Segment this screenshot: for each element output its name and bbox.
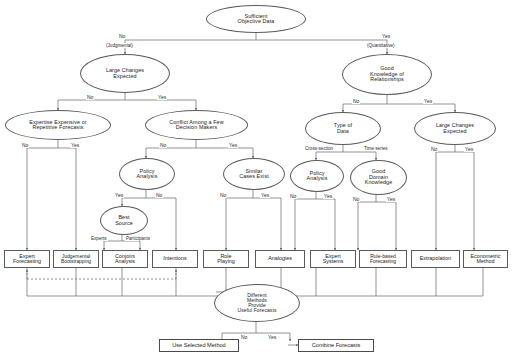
edge-label-lce-left-yes: Yes [157, 94, 167, 100]
edge-label-gkr-no: No [352, 98, 360, 104]
edge-label-root-yes: Yes [381, 33, 391, 39]
edge-label-root-yes-paren: (Quantitative) [366, 43, 396, 48]
edge-label-different-methods-yes: Yes [267, 334, 277, 340]
node-similar-cases-exist: SimilarCases Exist [223, 158, 285, 190]
outcome-use-selected-method: Use Selected Method [159, 339, 239, 352]
method-expert-systems: ExpertSystems [310, 250, 356, 268]
method-rule-based-forecasting: Rule-basedForecasting [359, 250, 407, 268]
node-conflict-among-few: Conflict Among a FewDecision Makers [145, 110, 248, 140]
method-econometric-method: EconometricMethod [463, 250, 508, 268]
node-best-source: BestSource [100, 206, 148, 235]
forecasting-flowchart: SufficientObjective Data Large ChangesEx… [0, 0, 512, 359]
edge-label-best-experts: Experts [90, 236, 108, 241]
edge-label-lce-right-yes: Yes [464, 146, 474, 152]
edge-label-time-series: Time series [363, 146, 389, 151]
edge-label-pa-right-yes: Yes [323, 193, 333, 199]
edge-label-different-methods-no: No [240, 334, 248, 340]
edge-label-gdk-no: No [352, 196, 360, 202]
edge-label-conflict-no: No [159, 142, 167, 148]
edge-label-best-participants: Participants [125, 236, 151, 241]
edge-label-pa-left-yes: Yes [114, 192, 124, 198]
node-type-of-data: Type ofData [305, 112, 381, 145]
edge-label-pa-right-no: No [289, 193, 297, 199]
node-policy-analysis-right: PolicyAnalysis [290, 160, 344, 192]
node-good-knowledge-relationships: GoodKnowledge ofRelationships [342, 54, 432, 95]
method-judgemental-bootstrapping: JudgementalBootstrapping [53, 250, 99, 268]
outcome-combine-forecasts: Combine Forecasts [298, 339, 374, 352]
edge-label-sce-no: No [219, 192, 227, 198]
node-policy-analysis-left: PolicyAnalysis [119, 158, 175, 190]
edge-label-cross-section: Cross-section [304, 146, 334, 151]
node-different-methods: DifferentMethodsProvideUseful Forecasts [214, 284, 300, 322]
edge-label-gkr-yes: Yes [423, 98, 433, 104]
edge-label-conflict-yes: Yes [228, 142, 238, 148]
method-analogies: Analogies [255, 250, 305, 268]
edge-label-expertise-yes: Yes [70, 142, 80, 148]
node-large-changes-expected-right: Large ChangesExpected [414, 112, 496, 145]
edge-label-gdk-yes: Yes [386, 196, 396, 202]
edge-label-pa-left-no: No [155, 192, 163, 198]
edge-label-expertise-no: No [21, 142, 29, 148]
method-role-playing: RolePlaying [203, 250, 249, 268]
edge-label-lce-right-no: No [430, 146, 438, 152]
method-extrapolation: Extrapolation [411, 250, 460, 268]
node-good-domain-knowledge: GoodDomainKnowledge [350, 160, 407, 195]
edge-label-lce-left-no: No [86, 94, 94, 100]
edge-label-sce-yes: Yes [260, 192, 270, 198]
node-expertise-expensive: Expertise Expensive orRepetitive Forecas… [5, 110, 111, 140]
node-large-changes-expected-left: Large ChangesExpected [80, 54, 170, 93]
edge-label-root-no: No [118, 33, 126, 39]
method-conjoint-analysis: ConjointAnalysis [102, 250, 148, 268]
node-sufficient-objective-data: SufficientObjective Data [206, 5, 306, 33]
method-expert-forecasting: ExpertForecasting [4, 250, 50, 268]
edge-label-root-no-paren: (Judgmental) [105, 43, 134, 48]
method-intentions: Intentions [152, 250, 198, 268]
